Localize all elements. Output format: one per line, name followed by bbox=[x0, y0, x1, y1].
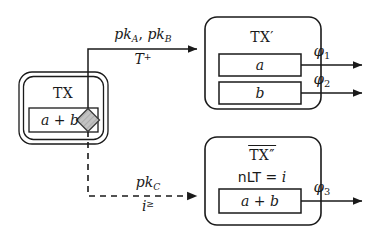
tx-cell-label: a + b bbox=[41, 113, 79, 127]
tx-prime-cell-b: b bbox=[256, 86, 265, 100]
tx-double-prime-cell: a + b bbox=[241, 194, 279, 208]
tx-double-prime-title-base: TX bbox=[249, 147, 269, 163]
edge-dashed-label-bottom: i≥ bbox=[142, 199, 154, 213]
edge-solid-pk-a: pkA bbox=[114, 26, 138, 42]
phi3-sub: 3 bbox=[324, 186, 330, 197]
edge-solid-pk-b: pkB bbox=[147, 26, 171, 42]
phi2-label: φ2 bbox=[314, 72, 331, 87]
condition-eq: = bbox=[266, 169, 278, 185]
phi1-sub: 1 bbox=[324, 50, 330, 61]
node-tx[interactable] bbox=[19, 72, 108, 144]
tx-title: TX bbox=[53, 86, 73, 100]
edge-solid-comma: , bbox=[138, 26, 147, 42]
diagram-canvas: TX a + b pkA, pkB T+ pkC i≥ TX′ a b φ1 φ… bbox=[0, 0, 373, 243]
condition-key: nLT bbox=[238, 169, 261, 185]
tx-double-prime-overline: TX″ bbox=[249, 148, 275, 162]
edge-dashed-pk-base: pk bbox=[136, 174, 153, 190]
edge-dashed-label-top: pkC bbox=[136, 175, 161, 189]
tx-prime-title-base: TX bbox=[250, 29, 270, 45]
edge-solid-t-sup: + bbox=[144, 51, 152, 62]
phi1-base: φ bbox=[314, 42, 325, 60]
edge-solid-label-top: pkA, pkB bbox=[114, 27, 171, 41]
tx-prime-title-mark: ′ bbox=[270, 29, 274, 45]
tx-double-prime-title-mark: ″ bbox=[269, 147, 275, 163]
edge-solid-t-base: T bbox=[134, 51, 143, 67]
phi1-label: φ1 bbox=[314, 44, 331, 59]
tx-double-prime-title: TX″ bbox=[249, 148, 275, 162]
phi3-label: φ3 bbox=[314, 180, 331, 195]
phi2-sub: 2 bbox=[324, 78, 330, 89]
tx-prime-cell-a: a bbox=[256, 58, 264, 72]
edge-dashed-i-sup: ≥ bbox=[146, 198, 154, 209]
phi2-base: φ bbox=[314, 70, 325, 88]
edge-solid-label-bottom: T+ bbox=[134, 52, 151, 66]
tx-prime-title: TX′ bbox=[250, 30, 274, 44]
tx-double-prime-condition: nLT = i bbox=[238, 170, 286, 184]
phi3-base: φ bbox=[314, 178, 325, 196]
condition-value: i bbox=[282, 169, 286, 185]
edge-dashed-pk-sub: C bbox=[153, 181, 160, 192]
